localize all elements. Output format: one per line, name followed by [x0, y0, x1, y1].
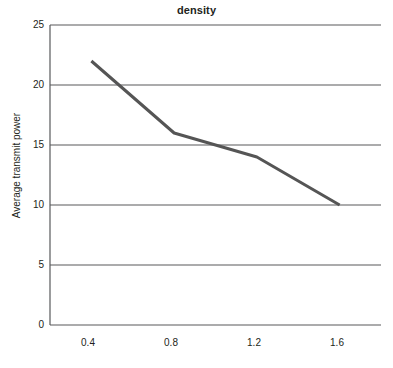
series-line-density — [91, 61, 339, 205]
plot-area — [0, 0, 393, 368]
chart-container: density Average transmit power 25 20 15 … — [0, 0, 393, 368]
